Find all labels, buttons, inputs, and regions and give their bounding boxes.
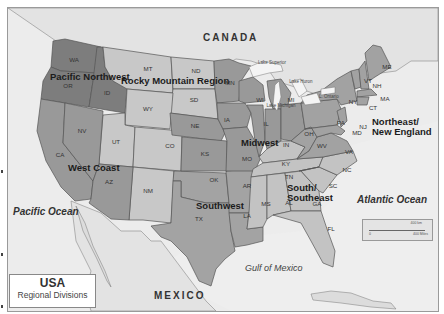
label-WA: WA — [69, 56, 80, 63]
label-region-rocky: Rocky Mountain Region — [121, 75, 229, 86]
label-OR: OR — [63, 82, 73, 89]
label-MO: MO — [242, 155, 252, 162]
label-mexico: MEXICO — [154, 290, 205, 301]
scale-bar — [369, 230, 425, 231]
label-lake-michigan: Lake Michigan — [266, 103, 296, 108]
label-WY: WY — [143, 105, 153, 112]
label-IA: IA — [224, 116, 231, 123]
label-lake-ontario: L. Ontario — [319, 94, 339, 99]
label-lake-huron: Lake Huron — [289, 79, 313, 84]
map-subtitle: Regional Divisions — [10, 290, 95, 301]
label-TX: TX — [195, 215, 203, 222]
label-NH: NH — [373, 82, 382, 89]
label-LA: LA — [243, 212, 251, 219]
label-IN: IN — [283, 141, 289, 148]
label-AZ: AZ — [105, 178, 113, 185]
label-canada: CANADA — [203, 32, 258, 43]
label-region-south-2: Southeast — [287, 192, 334, 203]
label-MD: MD — [352, 129, 362, 136]
label-NC: NC — [343, 166, 352, 173]
label-KS: KS — [201, 150, 209, 157]
label-SD: SD — [190, 96, 199, 103]
tick-mark — [1, 305, 3, 308]
label-KY: KY — [282, 160, 290, 167]
scale-km-label: 400 km — [411, 221, 422, 225]
label-region-midwest: Midwest — [241, 137, 279, 148]
label-lake-superior: Lake Superior — [258, 60, 287, 65]
label-NE: NE — [191, 122, 200, 129]
usa-regional-map: WA OR ID MT ND SD WY NE NV UT CO KS CA A… — [8, 8, 438, 311]
tick-mark — [1, 253, 3, 256]
label-ID: ID — [104, 89, 111, 96]
state-IA[interactable] — [217, 103, 251, 129]
label-AR: AR — [243, 182, 252, 189]
state-NM[interactable] — [129, 167, 174, 223]
label-WV: WV — [317, 142, 328, 149]
label-SC: SC — [329, 182, 338, 189]
label-OH: OH — [304, 130, 313, 137]
label-VA: VA — [345, 148, 354, 155]
tick-mark — [1, 170, 3, 173]
map-title: USA — [10, 277, 95, 290]
label-VT: VT — [364, 77, 372, 84]
scale-miles-label: 400 Miles — [413, 232, 428, 236]
label-MI: MI — [288, 96, 295, 103]
label-MA: MA — [380, 95, 390, 102]
label-pacific-ocean: Pacific Ocean — [13, 206, 79, 217]
map-scale: 400 km 0 400 Miles — [362, 219, 433, 241]
label-region-pnw: Pacific Northwest — [50, 71, 131, 82]
label-region-ne-2: New England — [372, 126, 432, 137]
label-NY: NY — [349, 98, 358, 105]
label-TN: TN — [285, 173, 293, 180]
label-ND: ND — [192, 67, 201, 74]
label-MT: MT — [144, 65, 153, 72]
label-IL: IL — [263, 120, 269, 127]
label-NV: NV — [78, 127, 87, 134]
label-MS: MS — [261, 200, 270, 207]
label-UT: UT — [112, 138, 120, 145]
label-region-southwest: Southwest — [196, 200, 245, 211]
label-ME: ME — [382, 63, 391, 70]
label-CA: CA — [56, 151, 65, 158]
label-OK: OK — [210, 176, 220, 183]
label-atlantic-ocean: Atlantic Ocean — [356, 194, 427, 205]
scale-zero-label: 0 — [369, 232, 371, 236]
label-NJ: NJ — [359, 123, 367, 130]
label-WI: WI — [256, 96, 264, 103]
label-NM: NM — [143, 187, 153, 194]
map-frame: WA OR ID MT ND SD WY NE NV UT CO KS CA A… — [7, 7, 439, 312]
state-CT[interactable] — [357, 97, 369, 105]
label-CO: CO — [165, 142, 174, 149]
label-gulf-of-mexico: Gulf of Mexico — [245, 263, 303, 273]
label-FL: FL — [327, 225, 335, 232]
label-PA: PA — [337, 119, 346, 126]
map-title-box: USA Regional Divisions — [9, 274, 96, 308]
label-region-west: West Coast — [68, 162, 120, 173]
label-CT: CT — [369, 104, 377, 111]
